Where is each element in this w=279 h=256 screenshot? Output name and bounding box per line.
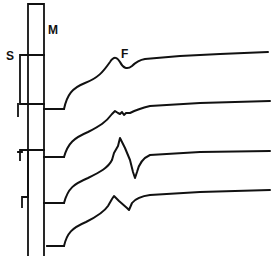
- figure-background: [0, 0, 279, 256]
- label-m-wave: M: [48, 24, 58, 36]
- trace-figure: [0, 0, 279, 256]
- label-s-stimulus: S: [6, 50, 14, 62]
- label-f-wave: F: [121, 48, 128, 60]
